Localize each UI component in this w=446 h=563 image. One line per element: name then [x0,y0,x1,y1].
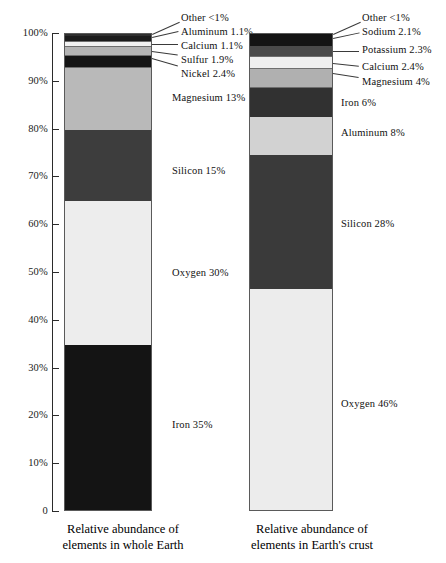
segment-sodium-right [250,36,332,46]
segment-aluminum-right [250,117,332,155]
label-calcium-right: Calcium 2.4% [362,61,424,72]
label-magnesium-right: Magnesium 4% [362,76,430,87]
label-magnesium-left: Magnesium 13% [172,92,245,103]
y-axis-tick-60 [52,224,59,225]
segment-iron-left [65,345,151,511]
label-aluminum-right: Aluminum 8% [341,127,405,138]
label-other-left: Other <1% [181,12,229,23]
caption-earth-crust-line2: elements in Earth's crust [222,538,402,554]
label-silicon-right: Silicon 28% [341,218,394,229]
y-axis-tick-20 [52,415,59,416]
label-silicon-left: Silicon 15% [172,165,225,176]
y-axis-tick-70 [52,176,59,177]
segment-potassium-right [250,46,332,57]
label-other-right: Other <1% [362,12,410,23]
leader-line-sulfur-left [152,51,178,56]
label-iron-right: Iron 6% [341,97,376,108]
y-axis-tick-label-80: 80% [4,123,48,134]
segment-oxygen-left [65,201,151,344]
y-axis-tick-40 [52,320,59,321]
segment-iron-right [250,88,332,117]
segment-magnesium-left [65,68,151,130]
caption-earth-crust-line1: Relative abundance of [222,522,402,538]
y-axis-tick-label-90: 90% [4,75,48,86]
leader-line-sodium-right [333,32,360,39]
label-potassium-right: Potassium 2.3% [362,44,432,55]
y-axis-tick-label-100: 100% [4,27,48,38]
y-axis-tick-90 [52,81,59,82]
leader-line-nickel-left [152,58,178,66]
leader-line-calcium-left [152,44,178,45]
y-axis-tick-label-60: 60% [4,218,48,229]
label-sodium-right: Sodium 2.1% [362,26,421,37]
segment-calcium-right [250,57,332,69]
y-axis-tick-label-40: 40% [4,314,48,325]
label-calcium-left: Calcium 1.1% [181,40,243,51]
y-axis-tick-10 [52,463,59,464]
segment-silicon-left [65,130,151,202]
caption-whole-earth-line1: Relative abundance of [38,522,208,538]
leader-line-potassium-right [333,51,359,52]
y-axis-tick-80 [52,129,59,130]
label-aluminum-left: Aluminum 1.1% [181,26,253,37]
caption-whole-earth: Relative abundance of elements in whole … [38,522,208,553]
segment-oxygen-right [250,289,332,511]
label-iron-left: Iron 35% [172,419,213,430]
y-axis-tick-label-10: 10% [4,457,48,468]
label-nickel-left: Nickel 2.4% [181,68,235,79]
y-axis-tick-50 [52,272,59,273]
caption-whole-earth-line2: elements in whole Earth [38,538,208,554]
y-axis-tick-label-30: 30% [4,362,48,373]
y-axis-tick-0 [52,511,59,512]
segment-sulfur-left [65,47,151,56]
bar-earth-crust [249,33,333,511]
caption-earth-crust: Relative abundance of elements in Earth'… [222,522,402,553]
label-oxygen-right: Oxygen 46% [341,398,398,409]
leader-line-calcium-right [333,63,359,67]
bar-whole-earth [64,33,152,511]
y-axis-tick-label-0: 0 [4,505,48,516]
chart-canvas: 100% 90% 80% 70% 60% 50% 40% 30% 20% 10%… [0,0,446,563]
segment-magnesium-right [250,69,332,88]
segment-silicon-right [250,155,332,289]
y-axis-tick-label-20: 20% [4,409,48,420]
y-axis-tick-100 [52,33,59,34]
y-axis-tick-30 [52,368,59,369]
y-axis-tick-label-50: 50% [4,266,48,277]
segment-nickel-left [65,56,151,68]
leader-line-magnesium-right [333,73,359,78]
y-axis-tick-label-70: 70% [4,170,48,181]
label-sulfur-left: Sulfur 1.9% [181,54,233,65]
label-oxygen-left: Oxygen 30% [172,267,229,278]
